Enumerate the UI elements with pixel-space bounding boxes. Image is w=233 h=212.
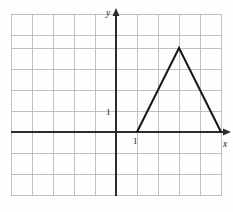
x-axis-tick-label-1: 1 [133, 136, 138, 146]
x-axis-arrowhead [223, 129, 231, 136]
y-axis-arrowhead [113, 8, 120, 16]
x-axis-label: x [222, 139, 228, 149]
triangle-outline [137, 48, 221, 132]
x-axis [11, 129, 231, 136]
graph-figure: y x 1 1 [0, 0, 233, 212]
y-axis [113, 8, 120, 196]
y-axis-label: y [105, 8, 111, 18]
coordinate-plane: y x 1 1 [0, 0, 233, 212]
y-axis-tick-label-1: 1 [106, 107, 111, 117]
